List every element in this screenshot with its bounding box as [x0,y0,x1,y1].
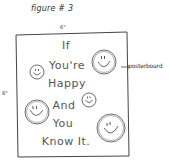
poster-text-line: You [53,118,73,129]
smiley-face-icon [92,50,116,74]
smiley-face-icon [97,114,125,142]
poster-text-line: Happy [48,78,86,89]
poster-text-line: You're [49,60,85,71]
poster-text-line: And [53,100,76,111]
posterboard-callout-label: posterboard [128,63,162,69]
poster-text-line: If [62,40,70,51]
width-dimension-label: 6" [60,25,65,30]
figure-canvas: figure # 3 6" 8" posterboard If You're H… [0,0,170,161]
poster-text-line: Know It. [42,136,90,147]
smiley-face-icon [30,65,44,79]
height-dimension-label: 8" [2,91,7,96]
smiley-face-icon [82,93,96,107]
figure-title: figure # 3 [31,5,73,13]
smiley-face-icon [25,100,49,124]
